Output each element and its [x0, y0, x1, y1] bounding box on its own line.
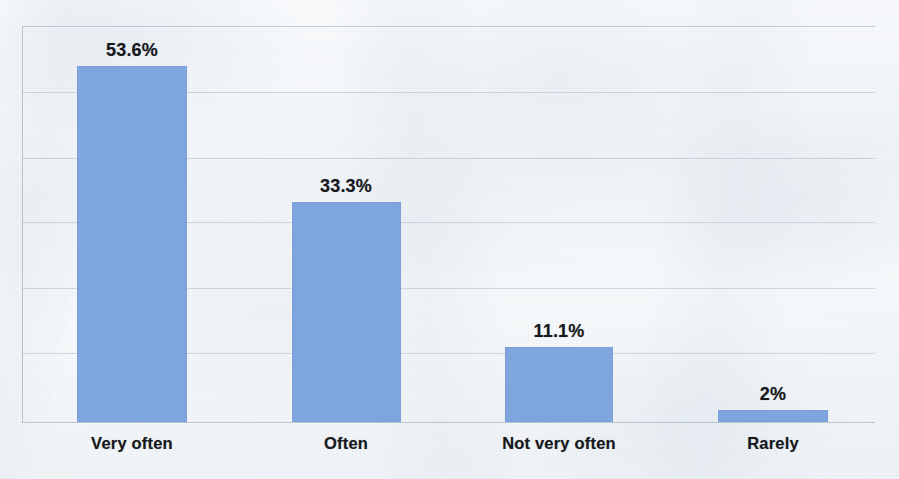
bar-often: [292, 202, 401, 422]
bar-value-label: 53.6%: [62, 40, 202, 61]
bar-not-very-often: [505, 347, 613, 422]
category-axis-label: Often: [256, 434, 436, 453]
bars-layer: 53.6%Very often33.3%Often11.1%Not very o…: [0, 0, 899, 479]
bar-very-often: [77, 66, 187, 422]
bar-rarely: [718, 410, 828, 422]
bar-value-label: 33.3%: [276, 176, 416, 197]
category-axis-label: Very often: [42, 434, 222, 453]
category-axis-label: Rarely: [683, 434, 863, 453]
bar-value-label: 2%: [703, 384, 843, 405]
bar-value-label: 11.1%: [489, 321, 629, 342]
category-axis-label: Not very often: [469, 434, 649, 453]
bar-chart-figure: 53.6%Very often33.3%Often11.1%Not very o…: [0, 0, 899, 479]
